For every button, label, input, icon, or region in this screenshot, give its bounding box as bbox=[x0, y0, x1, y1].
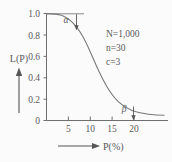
x-tick-label-3: 15 bbox=[107, 124, 117, 134]
beta-symbol: β bbox=[121, 104, 127, 114]
y-tick-label-1: 1.0 bbox=[28, 9, 40, 19]
x-tick-label-4: 20 bbox=[129, 124, 139, 134]
alpha-annotation: α bbox=[64, 14, 79, 30]
alpha-symbol: α bbox=[64, 15, 70, 25]
y-tick-label-6: 0 bbox=[35, 116, 40, 126]
parameter-acceptance-number: c=3 bbox=[106, 57, 121, 67]
oc-curve-chart: 1.0 0.8 0.6 0.4 0.2 0 5 10 15 20 α bbox=[0, 0, 172, 162]
x-axis-right-arrow-icon bbox=[58, 143, 100, 149]
y-tick-label-2: 0.8 bbox=[28, 31, 40, 41]
parameter-sample-size: n=30 bbox=[106, 43, 126, 53]
x-axis-title: P(%) bbox=[103, 141, 124, 153]
parameter-lot-size: N=1,000 bbox=[106, 29, 140, 39]
y-tick-label-4: 0.4 bbox=[28, 73, 40, 83]
chart-svg: 1.0 0.8 0.6 0.4 0.2 0 5 10 15 20 α bbox=[0, 0, 172, 162]
y-axis-title: L(P) bbox=[10, 53, 28, 65]
x-tick-label-2: 10 bbox=[86, 124, 96, 134]
beta-annotation: β bbox=[121, 104, 136, 120]
x-tick-label-1: 5 bbox=[66, 124, 71, 134]
y-tick-label-3: 0.6 bbox=[28, 52, 40, 62]
y-tick-label-5: 0.2 bbox=[28, 95, 40, 105]
x-axis-ticks bbox=[68, 117, 134, 121]
y-axis-up-arrow-icon bbox=[16, 68, 22, 114]
